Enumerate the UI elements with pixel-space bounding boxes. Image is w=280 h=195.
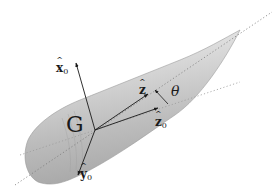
y0-label: y0	[80, 168, 92, 182]
projectile-body	[25, 30, 240, 184]
x0-label: x0	[56, 62, 68, 76]
z-label: z	[139, 84, 146, 96]
z0-label: z0	[155, 116, 167, 130]
theta-label: θ	[171, 84, 179, 98]
projectile-diagram: x0 y0 z z0 G θ	[0, 0, 280, 195]
center-of-gravity-label: G	[66, 114, 84, 136]
diagram-graphics	[0, 0, 280, 195]
